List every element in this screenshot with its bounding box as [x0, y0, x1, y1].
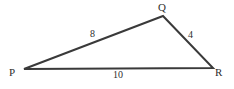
side-length-label-qr: 4 [188, 30, 193, 40]
vertex-label-q: Q [158, 2, 166, 13]
vertex-label-p: P [9, 67, 15, 78]
side-length-label-pq: 8 [90, 29, 95, 39]
triangle-figure: P Q R 8 4 10 [0, 0, 234, 89]
side-length-label-pr: 10 [113, 70, 123, 80]
triangle-outline [24, 16, 213, 69]
vertex-label-r: R [215, 67, 222, 78]
